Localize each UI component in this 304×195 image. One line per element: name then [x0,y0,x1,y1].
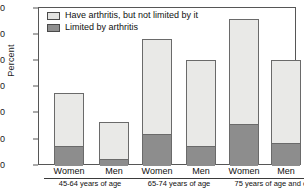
segment-limited [187,146,215,166]
segment-limited [100,159,128,166]
segment-not-limited [230,20,258,124]
group-label-75-plus: 75 years of age and over [220,179,304,188]
x-axis: Women Men Women Men Women Men 45-64 year… [38,166,296,195]
bar-men-45-64 [99,122,129,165]
light-swatch-icon [47,12,60,20]
segment-limited [272,143,300,166]
segment-not-limited [143,40,171,133]
legend-label-limited: Limited by arthritis [65,23,138,32]
segment-not-limited [100,123,128,159]
segment-not-limited [187,61,215,146]
segment-not-limited [272,61,300,143]
bar-women-65-74 [142,39,172,165]
arthritis-stacked-bar-chart: Percent 60 50 40 30 20 10 0 [0,0,304,195]
legend: Have arthritis, but not limited by it Li… [47,11,198,32]
dark-swatch-icon [47,24,60,32]
y-tick-label-50: 50 [0,30,5,39]
legend-item-limited: Limited by arthritis [47,23,198,32]
segment-not-limited [55,94,83,147]
segment-limited [143,134,171,166]
bar-women-75-plus [229,19,259,165]
y-axis-title: Percent [7,26,16,96]
legend-label-not-limited: Have arthritis, but not limited by it [65,11,198,20]
group-label-65-74: 65-74 years of age [134,179,224,188]
y-tick-label-10: 10 [0,135,5,144]
y-axis: Percent 60 50 40 30 20 10 0 [0,0,38,172]
segment-limited [55,146,83,166]
y-tick-label-40: 40 [0,56,5,65]
group-label-45-64: 45-64 years of age [44,179,136,188]
legend-item-not-limited: Have arthritis, but not limited by it [47,11,198,20]
y-tick-label-30: 30 [0,82,5,91]
bar-men-65-74 [186,60,216,165]
bar-women-45-64 [54,93,84,165]
y-tick-label-20: 20 [0,108,5,117]
y-tick-label-0: 0 [0,161,5,170]
segment-limited [230,124,258,166]
y-tick-label-60: 60 [0,4,5,13]
bar-men-75-plus [271,60,301,165]
